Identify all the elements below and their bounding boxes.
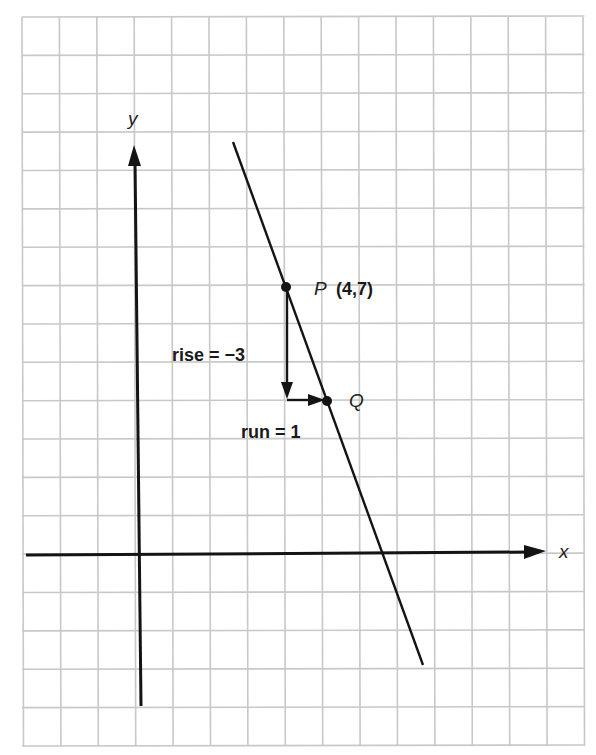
y-axis-label: y [126, 108, 139, 129]
point-p-label: P [314, 278, 327, 299]
point-q-label: Q [349, 390, 364, 411]
slope-diagram: y x P (4,7) Q rise = −3 run = 1 [0, 0, 596, 755]
rise-arrow [281, 290, 293, 399]
grid [22, 16, 585, 746]
run-label: run = 1 [241, 422, 301, 442]
x-axis-arrowhead-icon [524, 545, 546, 559]
x-axis [26, 545, 546, 559]
rise-label: rise = −3 [172, 345, 245, 365]
rise-arrowhead-icon [281, 382, 293, 399]
y-axis-arrowhead-icon [128, 145, 141, 166]
point-p [281, 282, 291, 292]
x-axis-label: x [558, 541, 570, 562]
run-arrow [287, 394, 325, 406]
point-p-coords: (4,7) [336, 279, 373, 299]
point-q [322, 396, 332, 406]
